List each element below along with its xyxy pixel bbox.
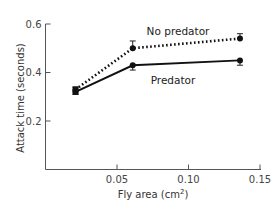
y-tick-label: 0.2 <box>26 116 42 127</box>
x-tick-label: 0.10 <box>177 174 199 185</box>
chart: 0.20.40.6 0.050.100.15 Attack time (seco… <box>0 0 277 219</box>
x-axis-label: Fly area (cm2) <box>118 188 189 200</box>
y-tick-label: 0.6 <box>26 19 42 30</box>
x-tick-label: 0.15 <box>249 174 271 185</box>
data-point-predator <box>237 57 243 63</box>
data-point-predator <box>73 89 79 95</box>
series-label-predator: Predator <box>151 74 196 86</box>
x-tick-label: 0.05 <box>106 174 128 185</box>
y-axis-label: Attack time (seconds) <box>15 43 26 153</box>
data-point-no-predator <box>237 36 243 42</box>
y-ticks: 0.20.40.6 <box>26 19 51 127</box>
x-ticks: 0.050.100.15 <box>106 165 271 185</box>
data-point-predator <box>130 62 136 68</box>
series-label-no-predator: No predator <box>147 25 210 37</box>
data-point-no-predator <box>130 45 136 51</box>
y-tick-label: 0.4 <box>26 67 42 78</box>
